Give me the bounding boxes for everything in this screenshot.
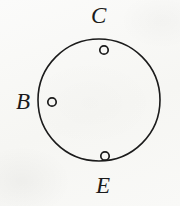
- point-marker-b: [48, 98, 56, 106]
- point-marker-c: [100, 46, 108, 54]
- point-marker-e: [101, 152, 109, 160]
- figure-canvas: C B E: [0, 0, 180, 206]
- point-label-e: E: [96, 174, 110, 197]
- point-label-b: B: [16, 90, 30, 113]
- point-label-c: C: [91, 4, 106, 27]
